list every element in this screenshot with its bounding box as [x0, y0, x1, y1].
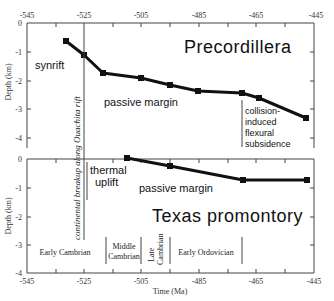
- bottom-panel-title: Texas promontory: [152, 206, 303, 226]
- top-y-tick-label: -4: [15, 134, 22, 143]
- top-panel-title: Precordillera: [184, 37, 292, 57]
- bottom-x-tick-label: -525: [77, 277, 92, 286]
- bottom-panel: 0 -1 -2 -3 -4 Depth (km) -545 -525 -505 …: [4, 155, 321, 296]
- bottom-y-tick-label: -3: [15, 241, 22, 250]
- top-x-tick-label: -505: [134, 11, 149, 20]
- bottom-x-tick-label: -445: [307, 277, 322, 286]
- bottom-x-tick-label: -505: [134, 277, 149, 286]
- bottom-passive-margin-label: passive margin: [139, 182, 213, 194]
- period-early-cambrian: Early Cambrian: [40, 248, 91, 257]
- bottom-x-tick-label: -545: [20, 277, 35, 286]
- bottom-top-ticks: [56, 159, 285, 163]
- period-late-cambrian-2: Cambrian: [156, 233, 165, 265]
- top-panel: -545 -525 -505 -485 -465 -445: [4, 11, 323, 149]
- collision-label-4: subsidence: [245, 139, 291, 149]
- top-x-tick-label: -485: [192, 11, 207, 20]
- bottom-y-tick-label: -1: [15, 184, 22, 193]
- subsidence-chart: -545 -525 -505 -485 -465 -445: [0, 0, 334, 301]
- period-middle-cambrian-2: Cambrian: [108, 252, 140, 261]
- bottom-x-tick-label: -485: [192, 277, 207, 286]
- top-x-ticks: [56, 23, 285, 27]
- top-y-tick-label: 0: [18, 19, 22, 28]
- top-y-tick-label: -2: [15, 77, 22, 86]
- period-early-ordovician: Early Ordovician: [178, 248, 233, 257]
- collision-label-1: collision-: [245, 106, 280, 116]
- bottom-y-tick-label: -2: [15, 213, 22, 222]
- top-x-tick-label: -465: [249, 11, 264, 20]
- top-y-axis-title: Depth (km): [4, 63, 13, 100]
- period-middle-cambrian-1: Middle: [112, 242, 136, 251]
- top-x-tick-label: -445: [309, 11, 324, 20]
- period-late-cambrian-1: Late: [147, 247, 156, 262]
- thermal-label-1: thermal: [90, 164, 127, 176]
- bottom-y-tick-label: 0: [18, 155, 22, 164]
- bottom-y-axis-title: Depth (km): [4, 197, 13, 234]
- bottom-x-tick-label: -465: [249, 277, 264, 286]
- bottom-series-line: [127, 158, 307, 180]
- top-y-tick-label: -3: [15, 105, 22, 114]
- collision-label-3: flexural: [245, 128, 274, 138]
- x-axis-title: Time (Ma): [153, 287, 188, 296]
- top-x-tick-label: -525: [77, 11, 92, 20]
- collision-label-2: induced: [245, 117, 277, 127]
- top-passive-margin-label: passive margin: [104, 96, 178, 108]
- top-y-tick-label: -1: [15, 48, 22, 57]
- bottom-x-ticks: [56, 269, 285, 273]
- rift-label: continental breakup along Ouachita rift: [72, 96, 82, 240]
- thermal-label-2: uplift: [95, 176, 118, 188]
- synrift-label: synrift: [35, 59, 64, 71]
